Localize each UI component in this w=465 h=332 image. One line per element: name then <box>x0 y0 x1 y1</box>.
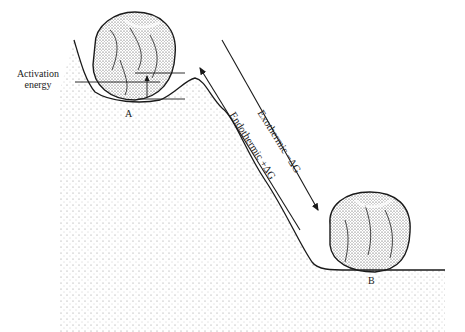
activation-energy-label: Activation energy <box>6 68 70 90</box>
boulder-b <box>330 192 410 272</box>
activation-energy-line1: Activation <box>6 68 70 79</box>
diagram-canvas <box>0 0 465 332</box>
state-b-label: B <box>368 275 375 286</box>
activation-energy-line2: energy <box>6 79 70 90</box>
boulder-a <box>93 12 175 100</box>
state-a-label: A <box>125 108 132 119</box>
